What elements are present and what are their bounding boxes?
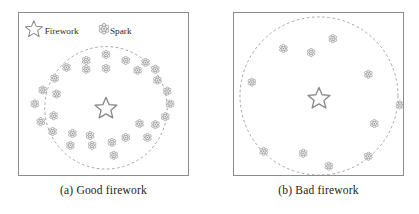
spark-marker xyxy=(110,151,118,160)
legend-spark-label: Spark xyxy=(110,26,132,36)
caption-good-firework: (a) Good firework xyxy=(18,184,189,196)
spark-marker xyxy=(151,65,159,74)
panel-good-firework: Firework Spark xyxy=(18,12,189,176)
spark-marker xyxy=(248,78,256,87)
spark-marker xyxy=(63,63,71,72)
spark-marker xyxy=(37,117,45,126)
spark-markers-group xyxy=(248,34,403,170)
spark-marker xyxy=(307,48,315,57)
spark-marker xyxy=(49,127,57,136)
spark-marker xyxy=(102,50,110,59)
spark-marker xyxy=(88,141,96,150)
spark-marker xyxy=(86,131,94,140)
figure-root: Firework Spark (a) Good firework (b) Bad… xyxy=(0,0,419,214)
panel-bad-firework xyxy=(233,12,404,176)
firework-marker xyxy=(308,87,330,108)
spark-marker xyxy=(122,56,130,65)
spark-marker xyxy=(136,119,144,128)
spark-marker xyxy=(53,90,61,99)
legend-spark-icon xyxy=(99,23,109,34)
spark-marker xyxy=(161,112,169,121)
spark-marker xyxy=(69,129,77,138)
spark-marker xyxy=(151,120,159,129)
spark-marker xyxy=(163,87,171,96)
spark-marker xyxy=(166,100,174,109)
spark-marker xyxy=(50,111,58,120)
legend-firework-icon xyxy=(25,21,42,37)
legend: Firework Spark xyxy=(25,21,131,37)
spark-marker xyxy=(134,66,142,75)
firework-marker xyxy=(95,97,117,118)
spark-marker xyxy=(370,119,378,128)
spark-marker xyxy=(260,147,268,156)
spark-marker xyxy=(51,74,59,83)
spark-marker xyxy=(325,162,333,171)
panel-bad-svg xyxy=(234,13,403,175)
spark-marker xyxy=(82,65,90,74)
spark-marker xyxy=(396,101,403,110)
panel-good-svg: Firework Spark xyxy=(19,13,188,175)
spark-marker xyxy=(365,70,373,79)
spark-marker xyxy=(153,76,161,85)
spark-marker xyxy=(299,149,307,158)
spark-marker xyxy=(280,44,288,53)
caption-bad-firework: (b) Bad firework xyxy=(233,184,404,196)
spark-marker xyxy=(102,64,110,73)
spark-marker xyxy=(82,56,90,65)
spark-marker xyxy=(122,133,130,142)
spark-marker xyxy=(67,141,75,150)
legend-firework-label: Firework xyxy=(45,26,79,36)
spark-marker xyxy=(142,58,150,67)
spark-marker xyxy=(108,138,116,147)
spark-marker xyxy=(39,86,47,95)
spark-marker xyxy=(31,100,39,109)
spark-marker xyxy=(365,152,373,161)
spark-marker xyxy=(144,133,152,142)
spark-marker xyxy=(329,34,337,43)
